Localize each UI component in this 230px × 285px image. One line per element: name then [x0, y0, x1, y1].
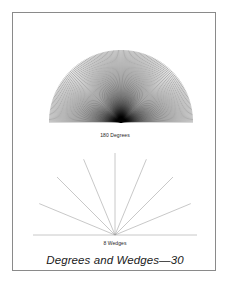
page-canvas: 180 Degrees 8 Wedges Degrees and Wedges—… [0, 0, 230, 285]
fan-ray [84, 159, 115, 235]
page-title: Degrees and Wedges—30 [13, 253, 217, 267]
wedges-rays-group [33, 153, 197, 235]
fan-ray [115, 177, 173, 235]
fan-ray [115, 159, 146, 235]
figure-8-wedges [19, 153, 211, 237]
figure-180-degrees [49, 31, 193, 131]
fan-ray [115, 204, 191, 235]
wedges-fan-svg [19, 153, 211, 237]
page-frame: 180 Degrees 8 Wedges Degrees and Wedges—… [12, 12, 216, 271]
fan-ray [39, 204, 115, 235]
fan-ray [57, 177, 115, 235]
degrees-fan-svg [49, 31, 193, 131]
figure-caption-degrees: 180 Degrees [13, 132, 217, 139]
figure-caption-wedges: 8 Wedges [13, 240, 217, 247]
degrees-rays-group [49, 50, 193, 122]
